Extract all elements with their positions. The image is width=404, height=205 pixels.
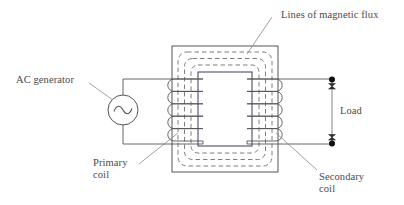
load-label: Load [340,105,362,117]
terminal-bowtie-top [329,84,336,90]
terminal-dot-bottom [329,141,335,147]
ac-generator-leader-line [89,83,113,100]
primary-coil-label-line1: Primary [93,157,128,169]
secondary-coil-leader-line [276,133,317,170]
flux-label: Lines of magnetic flux [281,9,379,21]
ac-generator-label: AC generator [16,74,74,86]
core-window-rect [198,72,252,146]
secondary-coil-label-line2: coil [319,183,335,195]
terminal-dot-top [329,77,335,83]
secondary-coil-label-line1: Secondary [319,171,364,183]
primary-coil-label-line2: coil [93,169,109,181]
terminal-bowtie-bottom [329,135,336,141]
figure-canvas: Lines of magnetic flux AC generator Prim… [0,0,404,205]
load-terminal-bottom [329,135,336,147]
flux-leader-line [247,17,272,54]
